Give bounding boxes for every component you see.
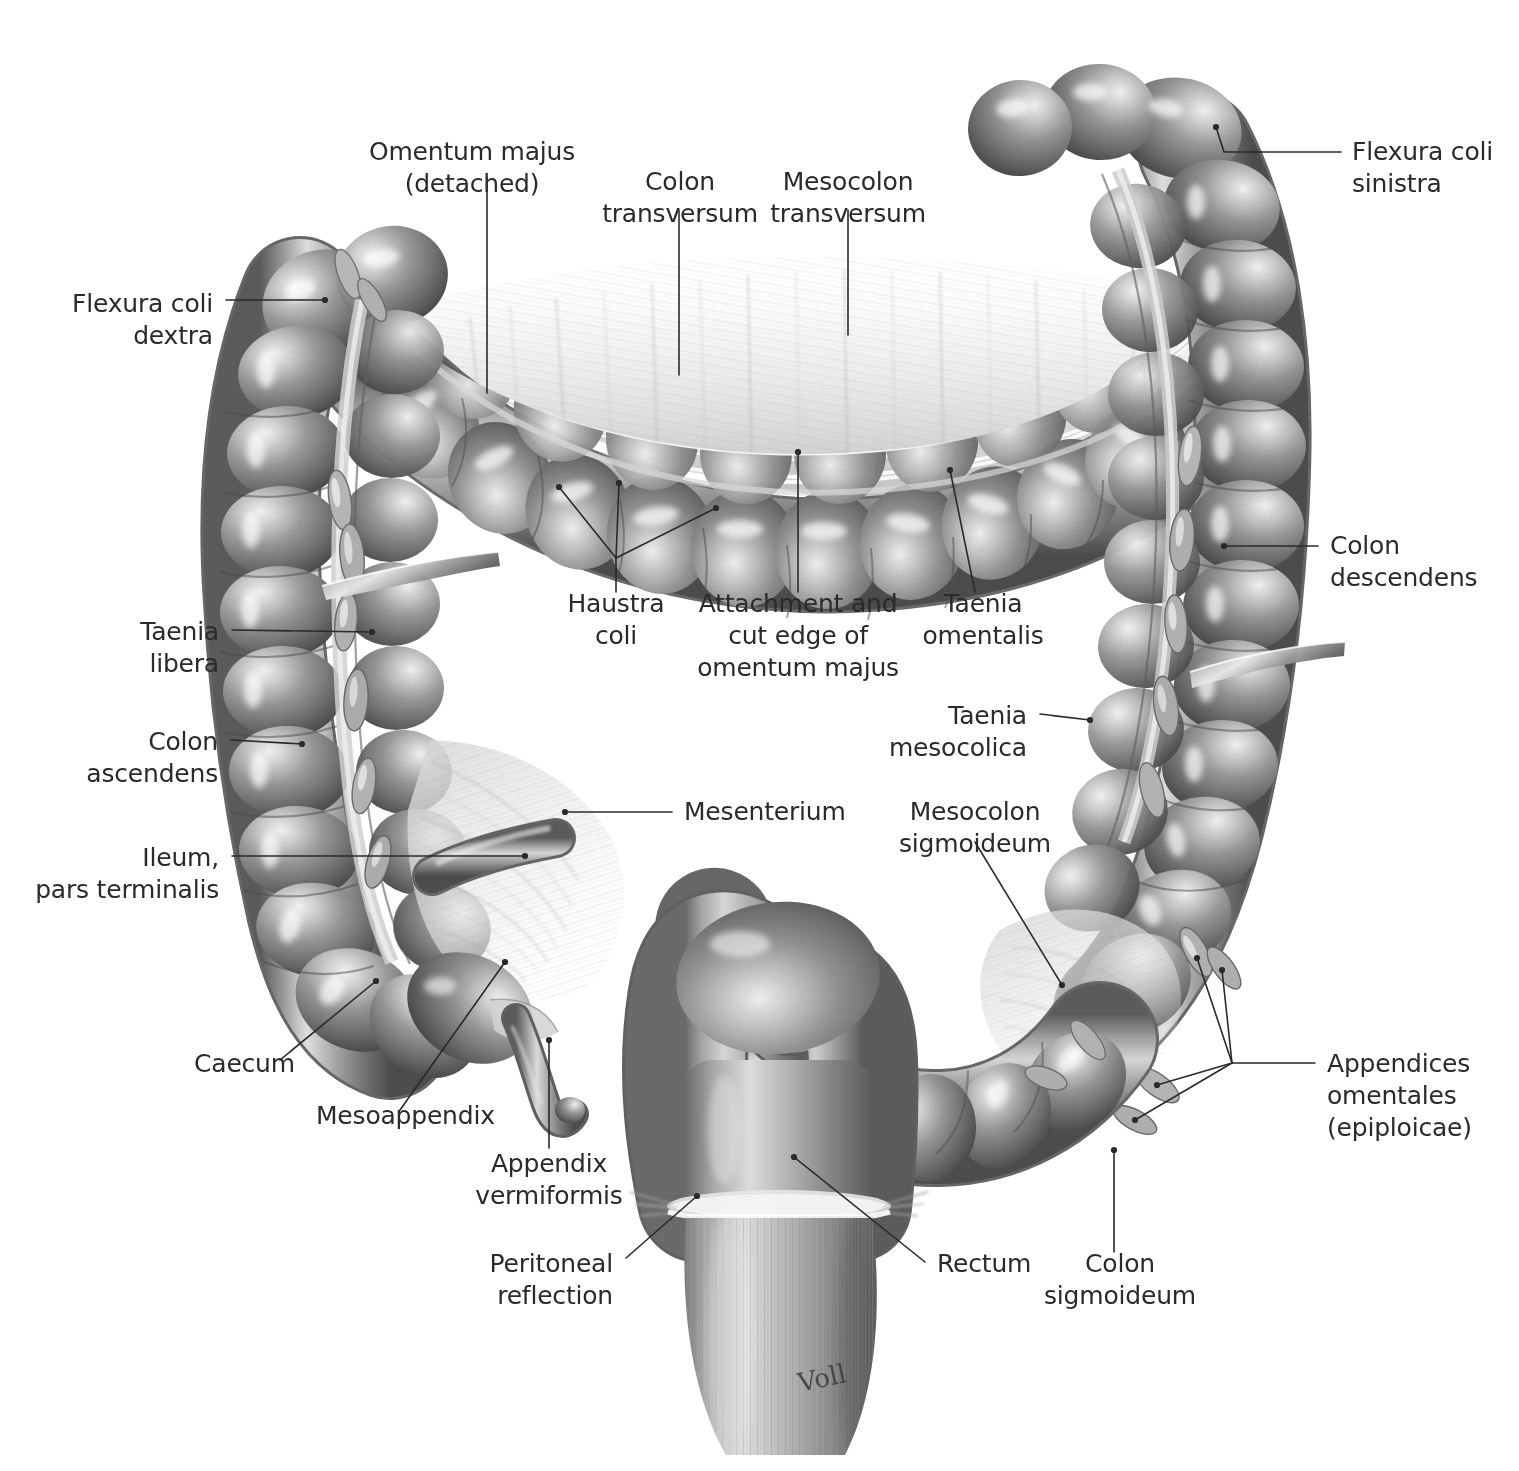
label-taenia-libera-line-2: libera xyxy=(149,649,219,678)
label-omentum-majus-detached: Omentum majus(detached) xyxy=(369,137,575,198)
leader-appendices-b3 xyxy=(1157,1063,1232,1085)
label-flexura-coli-dextra: Flexura colidextra xyxy=(72,289,213,350)
rectum-muscular-wall xyxy=(676,1210,882,1471)
label-rectum-line-1: Rectum xyxy=(937,1249,1031,1278)
label-colon-sigmoideum-line-1: Colon xyxy=(1085,1249,1155,1278)
leader-caecum-endpoint xyxy=(373,978,379,984)
label-omentum-majus-detached-line-2: (detached) xyxy=(405,169,540,198)
label-colon-sigmoideum: Colonsigmoideum xyxy=(1044,1249,1196,1310)
label-mesenterium: Mesenterium xyxy=(684,797,846,826)
leader-rectum-endpoint xyxy=(791,1154,797,1160)
leader-taenia-libera-endpoint xyxy=(369,629,375,635)
label-taenia-omentalis-line-2: omentalis xyxy=(922,621,1043,650)
label-attachment-cut-edge-line-2: cut edge of xyxy=(728,621,869,650)
label-ileum-pars-terminalis-line-2: pars terminalis xyxy=(35,875,219,904)
label-peritoneal-reflection: Peritonealreflection xyxy=(490,1249,613,1310)
label-appendices-omentales-line-3: (epiploicae) xyxy=(1327,1113,1472,1142)
label-taenia-mesocolica: Taeniamesocolica xyxy=(889,701,1027,762)
label-colon-sigmoideum-line-2: sigmoideum xyxy=(1044,1281,1196,1310)
label-colon-ascendens-line-2: ascendens xyxy=(86,759,218,788)
label-colon-descendens-line-2: descendens xyxy=(1330,563,1477,592)
rectum xyxy=(630,892,928,1471)
leader-attachment-cut-edge-endpoint xyxy=(795,449,801,455)
label-colon-ascendens-line-1: Colon xyxy=(148,727,218,756)
label-peritoneal-reflection-line-1: Peritoneal xyxy=(490,1249,613,1278)
leader-appendix-vermiformis-endpoint xyxy=(546,1037,552,1043)
label-taenia-mesocolica-line-2: mesocolica xyxy=(889,733,1027,762)
label-attachment-cut-edge-line-1: Attachment and xyxy=(699,589,898,618)
label-haustra-coli: Haustracoli xyxy=(568,589,665,650)
label-colon-transversum: Colontransversum xyxy=(602,167,758,228)
label-flexura-coli-dextra-line-1: Flexura coli xyxy=(72,289,213,318)
leader-flexura-coli-sinistra-endpoint xyxy=(1213,124,1219,130)
label-appendices-omentales-line-1: Appendices xyxy=(1327,1049,1470,1078)
label-mesenterium-line-1: Mesenterium xyxy=(684,797,846,826)
label-flexura-coli-sinistra-line-1: Flexura coli xyxy=(1352,137,1493,166)
label-peritoneal-reflection-line-2: reflection xyxy=(497,1281,613,1310)
label-appendix-vermiformis: Appendixvermiformis xyxy=(475,1149,622,1210)
label-haustra-coli-line-1: Haustra xyxy=(568,589,665,618)
leader-mesoappendix-endpoint xyxy=(502,959,508,965)
label-appendix-vermiformis-line-2: vermiformis xyxy=(475,1181,622,1210)
leader-mesocolon-sigmoideum-endpoint xyxy=(1059,982,1065,988)
label-flexura-coli-dextra-line-2: dextra xyxy=(133,321,213,350)
leader-flexura-coli-dextra-endpoint xyxy=(322,297,328,303)
leader-taenia-mesocolica-endpoint xyxy=(1087,717,1093,723)
label-rectum: Rectum xyxy=(937,1249,1031,1278)
label-colon-transversum-line-1: Colon xyxy=(645,167,715,196)
label-colon-ascendens: Colonascendens xyxy=(86,727,218,788)
label-flexura-coli-sinistra: Flexura colisinistra xyxy=(1352,137,1493,198)
leader-haustra-coli-b3-endpoint xyxy=(713,505,719,511)
label-appendices-omentales-line-2: omentales xyxy=(1327,1081,1457,1110)
label-ileum-pars-terminalis-line-1: Ileum, xyxy=(142,843,219,872)
label-mesocolon-transversum: Mesocolontransversum xyxy=(770,167,926,228)
label-omentum-majus-detached-line-1: Omentum majus xyxy=(369,137,575,166)
label-colon-descendens-line-1: Colon xyxy=(1330,531,1400,560)
leader-haustra-coli-b2-endpoint xyxy=(616,480,622,486)
label-taenia-libera-line-1: Taenia xyxy=(139,617,219,646)
label-mesoappendix: Mesoappendix xyxy=(316,1101,495,1130)
label-mesocolon-transversum-line-2: transversum xyxy=(770,199,926,228)
label-mesoappendix-line-1: Mesoappendix xyxy=(316,1101,495,1130)
label-mesocolon-sigmoideum-line-1: Mesocolon xyxy=(910,797,1041,826)
label-caecum: Caecum xyxy=(194,1049,295,1078)
label-haustra-coli-line-2: coli xyxy=(595,621,637,650)
label-taenia-mesocolica-line-1: Taenia xyxy=(947,701,1027,730)
leader-colon-sigmoideum-endpoint xyxy=(1111,1147,1117,1153)
leader-peritoneal-reflection-endpoint xyxy=(694,1193,700,1199)
leader-taenia-mesocolica xyxy=(1040,714,1090,720)
label-attachment-cut-edge-line-3: omentum majus xyxy=(697,653,899,682)
leader-ileum-pars-terminalis-endpoint xyxy=(522,853,528,859)
leader-mesenterium-endpoint xyxy=(562,809,568,815)
label-attachment-cut-edge: Attachment andcut edge ofomentum majus xyxy=(697,589,899,682)
label-ileum-pars-terminalis: Ileum,pars terminalis xyxy=(35,843,219,904)
label-appendices-omentales: Appendicesomentales(epiploicae) xyxy=(1327,1049,1472,1142)
label-mesocolon-sigmoideum: Mesocolonsigmoideum xyxy=(899,797,1051,858)
label-mesocolon-transversum-line-1: Mesocolon xyxy=(783,167,914,196)
large-intestine-illustration: Voll Omentum majus(detached)Colontransve… xyxy=(0,0,1519,1471)
leader-colon-ascendens-endpoint xyxy=(299,741,305,747)
leader-appendices-b3-endpoint xyxy=(1154,1082,1160,1088)
leader-haustra-coli-b1-endpoint xyxy=(556,484,562,490)
leader-appendices-b1-endpoint xyxy=(1194,955,1200,961)
label-caecum-line-1: Caecum xyxy=(194,1049,295,1078)
leader-taenia-omentalis-endpoint xyxy=(947,467,953,473)
leader-appendices-b4-endpoint xyxy=(1132,1117,1138,1123)
colon-drawing: Voll xyxy=(220,60,1345,1471)
leader-colon-descendens-endpoint xyxy=(1221,543,1227,549)
label-colon-transversum-line-2: transversum xyxy=(602,199,758,228)
label-flexura-coli-sinistra-line-2: sinistra xyxy=(1352,169,1442,198)
leader-appendices-b2-endpoint xyxy=(1219,967,1225,973)
label-appendix-vermiformis-line-1: Appendix xyxy=(491,1149,607,1178)
label-taenia-omentalis-line-1: Taenia xyxy=(943,589,1023,618)
label-mesocolon-sigmoideum-line-2: sigmoideum xyxy=(899,829,1051,858)
label-colon-descendens: Colondescendens xyxy=(1330,531,1477,592)
